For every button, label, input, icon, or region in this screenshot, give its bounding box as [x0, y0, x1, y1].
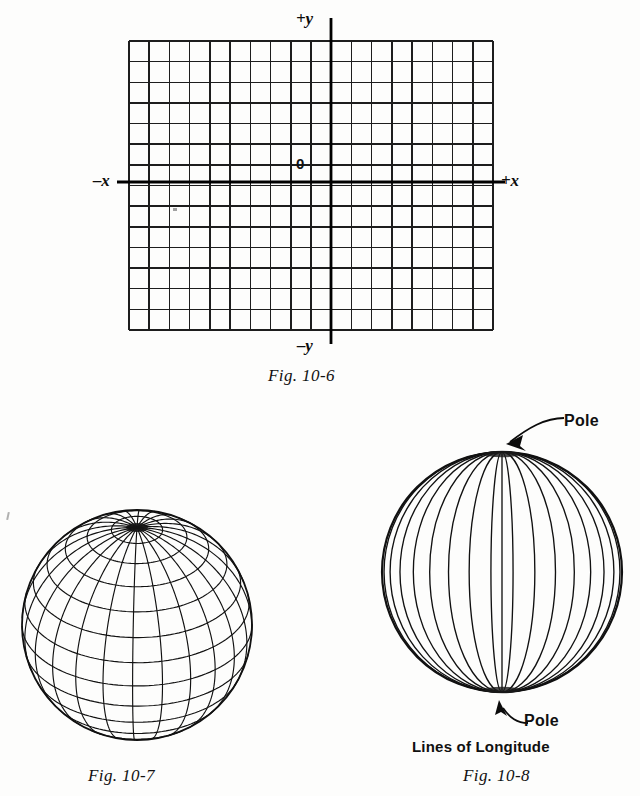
meridian-line [137, 527, 163, 739]
axis-label-positive-x: +x [501, 171, 519, 191]
axis-label-positive-y: +y [296, 9, 313, 29]
coordinate-grid-drawing [0, 0, 640, 400]
longitude-line [469, 452, 502, 692]
longitude-line [502, 452, 535, 692]
origin-label: 0 [296, 155, 304, 172]
meridian-line [137, 527, 252, 636]
longitude-line [502, 452, 620, 692]
longitude-line [384, 452, 502, 692]
longitude-line [502, 452, 513, 692]
longitude-line [390, 452, 502, 692]
figure-10-6: –x +x +y –y 0 Fig. 10-6 [0, 0, 640, 400]
meridian-line [22, 527, 137, 618]
longitude-line [491, 452, 502, 692]
meridian-line [133, 527, 137, 740]
north-pole-marker [484, 451, 520, 457]
globe-outline [22, 510, 252, 740]
figure-10-7-drawing [0, 470, 300, 770]
figure-10-6-caption: Fig. 10-6 [268, 366, 335, 386]
figure-10-7-caption: Fig. 10-7 [88, 766, 155, 786]
south-pole-arrowhead [495, 700, 507, 716]
axis-label-negative-x: –x [93, 171, 109, 191]
pole-label-south: Pole [524, 712, 559, 730]
figure-10-8-caption: Fig. 10-8 [463, 766, 530, 786]
pole-smudge [126, 523, 148, 532]
scan-speck [173, 208, 177, 211]
parallel-line [22, 626, 247, 686]
longitude-line [502, 452, 591, 692]
pole-label-north: Pole [564, 412, 599, 430]
longitude-line [413, 452, 502, 692]
axis-label-negative-y: –y [297, 336, 312, 356]
figure-page: –x +x +y –y 0 Fig. 10-6 Fig. 10-7 Pole P… [0, 0, 640, 796]
parallel-line [25, 594, 244, 663]
figure-10-8-drawing [360, 400, 640, 730]
parallel-line [235, 565, 241, 599]
longitude-line [502, 452, 614, 692]
figure-10-8-title: Lines of Longitude [412, 738, 550, 755]
south-pole-marker [484, 687, 520, 693]
meridian-line [25, 527, 137, 671]
